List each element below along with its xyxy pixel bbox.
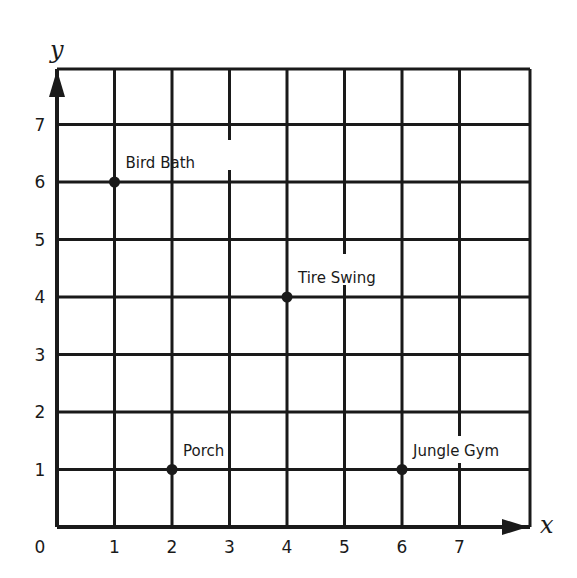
point-label: Bird Bath <box>126 154 196 172</box>
x-tick-label: 1 <box>109 537 120 557</box>
x-tick-label: 7 <box>454 537 465 557</box>
x-axis-arrow-icon <box>502 519 528 535</box>
y-tick-label: 4 <box>35 287 46 307</box>
y-tick-label: 6 <box>35 172 46 192</box>
point-marker-icon <box>397 464 408 475</box>
point-label: Jungle Gym <box>412 442 499 460</box>
y-tick-label: 5 <box>35 230 46 250</box>
data-points: Bird BathTire SwingPorchJungle Gym <box>109 154 499 475</box>
x-tick-label: 2 <box>167 537 178 557</box>
y-tick-label: 2 <box>35 402 46 422</box>
y-tick-label: 7 <box>35 115 46 135</box>
point-label: Porch <box>183 442 224 460</box>
y-tick-labels: 1234567 <box>35 115 46 480</box>
x-tick-label: 3 <box>224 537 235 557</box>
y-tick-label: 1 <box>35 460 46 480</box>
x-tick-label: 4 <box>282 537 293 557</box>
x-tick-label: 0 <box>35 537 46 557</box>
point-marker-icon <box>282 292 293 303</box>
x-tick-label: 6 <box>397 537 408 557</box>
x-axis-label: x <box>540 511 554 539</box>
point-marker-icon <box>109 177 120 188</box>
y-tick-label: 3 <box>35 345 46 365</box>
point-marker-icon <box>167 464 178 475</box>
y-axis-label: y <box>49 36 64 64</box>
x-tick-label: 5 <box>339 537 350 557</box>
y-axis-arrow-icon <box>49 70 65 97</box>
point-label: Tire Swing <box>297 269 376 287</box>
axes: y x <box>49 36 554 539</box>
coordinate-grid: y x 01234567 1234567 Bird BathTire Swing… <box>0 0 577 578</box>
x-tick-labels: 01234567 <box>35 537 465 557</box>
